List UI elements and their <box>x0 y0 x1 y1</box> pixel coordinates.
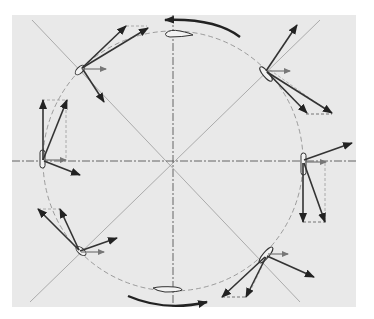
diagram-canvas <box>0 0 374 319</box>
turbine-force-diagram <box>0 0 374 319</box>
